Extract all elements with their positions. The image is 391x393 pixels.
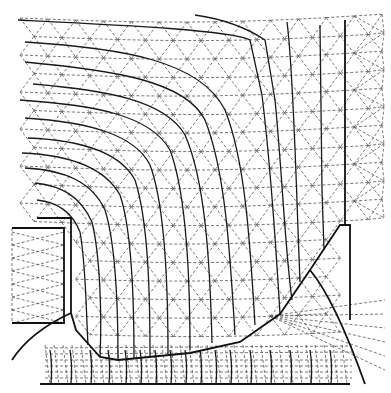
mesh-edge — [20, 203, 48, 204]
mesh-edge — [76, 279, 90, 298]
mesh-edge — [90, 261, 104, 280]
equipotential-line — [230, 350, 232, 384]
mesh-edge — [118, 151, 146, 152]
mesh-edge — [298, 223, 312, 242]
mesh-edge — [354, 182, 368, 201]
equipotential-line — [33, 84, 212, 343]
mesh-edge — [229, 262, 257, 263]
mesh-edge — [215, 318, 229, 337]
mesh-edge — [257, 279, 271, 298]
mesh-edge — [215, 280, 243, 281]
mesh-edge — [285, 149, 313, 150]
mesh-edge — [76, 298, 90, 317]
mesh-edge — [90, 132, 104, 150]
mesh-edge — [285, 39, 299, 56]
mesh-edge — [104, 243, 118, 261]
mesh-edge — [173, 281, 187, 299]
mesh-edge — [48, 167, 62, 186]
mesh-edge — [48, 56, 76, 57]
mesh-edge — [20, 148, 34, 167]
mesh-edge — [243, 132, 257, 151]
equipotential-line — [20, 100, 190, 350]
mesh-edge — [243, 169, 257, 188]
mesh-edge — [90, 261, 118, 262]
mesh-edge — [173, 263, 187, 282]
mesh-edge — [173, 244, 187, 262]
left-electrode-block — [12, 228, 64, 323]
mesh-edge — [271, 20, 285, 39]
mesh-edge — [159, 226, 173, 245]
mesh-edge — [187, 189, 201, 208]
mesh-edge — [76, 261, 90, 280]
mesh-edge — [90, 39, 118, 40]
mesh-edge — [118, 40, 132, 59]
mesh-figure — [0, 0, 391, 393]
mesh-edge — [312, 332, 340, 333]
equipotential-line — [25, 42, 255, 325]
mesh-edge — [34, 37, 62, 38]
mesh-edge — [326, 201, 354, 203]
mesh-edge — [298, 240, 326, 241]
mesh-edge — [201, 226, 215, 244]
mesh-edge — [229, 336, 257, 337]
mesh-edge — [201, 318, 215, 337]
mesh-edge — [243, 316, 271, 317]
mesh-edge — [48, 167, 76, 168]
mesh-edge — [298, 75, 312, 94]
mesh-edge — [173, 170, 187, 188]
mesh-edge — [312, 314, 326, 334]
mesh-edge — [48, 93, 76, 94]
mesh-edge — [145, 40, 159, 59]
mesh-edge — [48, 130, 76, 131]
mesh-edge — [215, 95, 243, 96]
mesh-edge — [215, 40, 229, 59]
mesh-edge — [215, 58, 243, 59]
mesh-edge — [340, 164, 354, 184]
mesh-edge — [354, 16, 384, 33]
mesh-edge — [131, 22, 145, 41]
mesh-edge — [131, 262, 145, 281]
mesh-edge — [298, 112, 312, 131]
mesh-edge — [243, 262, 257, 281]
mesh-edge — [145, 281, 159, 299]
mesh-edge — [104, 77, 118, 96]
mesh-edge — [243, 206, 257, 225]
mesh-edge — [20, 55, 34, 74]
mesh-edge — [201, 170, 215, 189]
mesh-edge — [104, 58, 132, 59]
mesh-edge — [257, 131, 271, 150]
mesh-edge — [257, 225, 271, 243]
mesh-edge — [34, 111, 62, 112]
mesh-edge — [62, 94, 76, 111]
mesh-edge — [257, 39, 285, 40]
mesh-edge — [298, 130, 312, 149]
mesh-edge — [118, 40, 146, 41]
mesh-edge — [76, 316, 104, 317]
mesh-edge — [326, 55, 340, 74]
mesh-edge — [340, 110, 354, 127]
mesh-edge — [118, 225, 146, 226]
mesh-edge — [90, 150, 104, 169]
mesh-edge — [285, 93, 299, 113]
lower-right-arc — [310, 270, 365, 384]
mesh-edge — [243, 77, 257, 96]
mesh-edge — [298, 167, 312, 186]
mesh-edge — [243, 94, 271, 95]
mesh-edge — [312, 203, 326, 223]
mesh-edge — [118, 188, 146, 189]
mesh-edge — [257, 298, 285, 299]
mesh-edge — [215, 299, 229, 318]
mesh-edge — [368, 182, 382, 199]
mesh-edge — [312, 223, 326, 240]
mesh-edge — [173, 22, 187, 40]
mesh-edge — [20, 74, 34, 93]
mesh-edge — [145, 299, 159, 318]
mesh-edge — [354, 127, 368, 146]
mesh-edge — [312, 149, 326, 166]
mesh-edge — [285, 75, 313, 76]
mesh-edge — [257, 299, 271, 317]
mesh-edge — [285, 130, 299, 150]
mesh-edge — [298, 297, 312, 316]
mesh-edge — [62, 75, 76, 95]
mesh-edge — [159, 133, 173, 152]
